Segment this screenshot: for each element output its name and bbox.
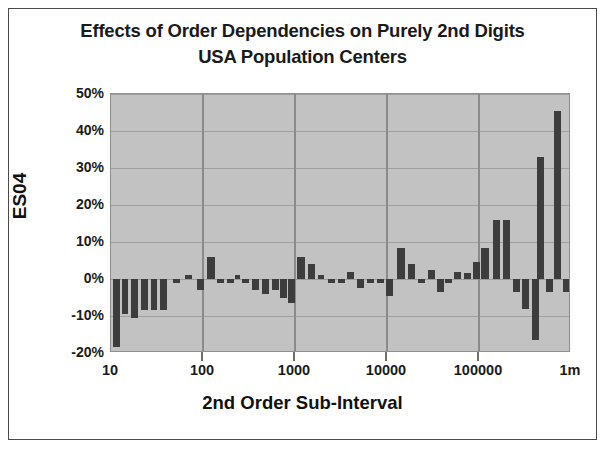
- horizontal-gridline: [111, 205, 569, 206]
- bar: [537, 157, 544, 279]
- bar: [532, 279, 539, 340]
- bar: [288, 279, 295, 303]
- bar: [318, 275, 324, 279]
- bar: [437, 279, 444, 292]
- bar: [185, 275, 192, 279]
- bar: [113, 279, 120, 347]
- y-axis-label: ES04: [9, 136, 31, 256]
- bar: [173, 279, 180, 283]
- x-axis-tick-label: 10000: [366, 362, 406, 378]
- bar: [386, 279, 393, 296]
- bar: [503, 220, 510, 279]
- horizontal-gridline: [111, 316, 569, 317]
- horizontal-gridline: [111, 168, 569, 169]
- bar: [454, 272, 461, 279]
- vertical-gridline: [386, 94, 388, 351]
- bar: [122, 279, 128, 314]
- y-axis-tick-label: 50%: [50, 85, 104, 101]
- bar: [357, 279, 364, 288]
- bar: [445, 279, 452, 283]
- x-axis-tick-label: 10: [102, 362, 118, 378]
- bar: [272, 279, 279, 290]
- bar: [217, 279, 224, 283]
- horizontal-gridline: [111, 242, 569, 243]
- bar: [328, 279, 335, 283]
- bar: [367, 279, 374, 283]
- bar: [522, 279, 529, 309]
- x-axis-tick-label: 1000: [278, 362, 310, 378]
- bar: [197, 279, 204, 290]
- bar: [141, 279, 148, 310]
- x-axis-tick-label: 100: [190, 362, 214, 378]
- bar: [464, 273, 471, 279]
- vertical-gridline: [202, 94, 204, 351]
- x-axis-tick-label: 1m: [560, 362, 581, 378]
- chart-title-line-2: USA Population Centers: [8, 44, 597, 70]
- bar: [418, 279, 425, 283]
- bar: [151, 279, 157, 310]
- x-axis-label: 2nd Order Sub-Interval: [8, 392, 597, 414]
- y-axis-tick-label: 10%: [50, 233, 104, 249]
- bar: [347, 272, 354, 279]
- bar: [473, 262, 480, 279]
- bar: [397, 248, 405, 279]
- bar: [207, 257, 215, 279]
- bar: [408, 264, 415, 279]
- y-axis-tick-label: 0%: [50, 270, 104, 286]
- bar: [262, 279, 269, 294]
- vertical-gridline: [478, 94, 480, 351]
- bar: [227, 279, 234, 283]
- bar: [280, 279, 287, 298]
- x-axis-tick-label: 100000: [454, 362, 502, 378]
- x-axis-ticks: 101001000100001000001m: [0, 352, 607, 386]
- bar: [481, 248, 489, 279]
- bar: [338, 279, 345, 283]
- horizontal-gridline: [111, 94, 569, 95]
- y-axis-ticks: 50%40%30%20%10%0%-10%-20%: [50, 93, 104, 352]
- vertical-gridline: [294, 94, 296, 351]
- bar: [554, 111, 561, 279]
- chart-title: Effects of Order Dependencies on Purely …: [8, 18, 597, 70]
- y-axis-tick-label: -10%: [50, 307, 104, 323]
- y-axis-tick-label: 40%: [50, 122, 104, 138]
- y-axis-tick-label: 30%: [50, 159, 104, 175]
- bar: [493, 220, 500, 279]
- bar: [297, 257, 305, 279]
- bar: [513, 279, 520, 292]
- y-axis-tick-label: 20%: [50, 196, 104, 212]
- bar: [308, 264, 315, 279]
- bar: [377, 279, 384, 283]
- bar: [131, 279, 138, 318]
- bar: [160, 279, 167, 310]
- bar: [242, 279, 249, 283]
- x-axis-tick-mark: [293, 352, 295, 361]
- bar: [546, 279, 553, 292]
- plot-area: [110, 93, 570, 352]
- bar: [235, 275, 240, 279]
- horizontal-gridline: [111, 131, 569, 132]
- x-axis-tick-mark: [385, 352, 387, 361]
- x-axis-tick-mark: [201, 352, 203, 361]
- chart-figure: Effects of Order Dependencies on Purely …: [0, 0, 607, 450]
- x-axis-tick-mark: [477, 352, 479, 361]
- bar: [252, 279, 259, 290]
- bar: [563, 279, 570, 292]
- chart-title-line-1: Effects of Order Dependencies on Purely …: [8, 18, 597, 44]
- bar: [428, 270, 435, 279]
